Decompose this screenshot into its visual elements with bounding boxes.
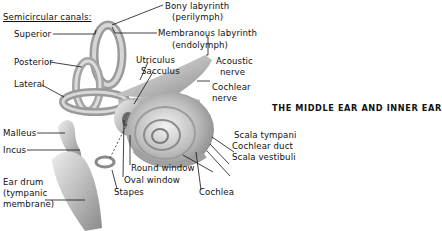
- membranous-labyrinth-label: Membranous labyrinth: [158, 28, 257, 38]
- bony-labyrinth-label: Bony labyrinth: [165, 1, 229, 11]
- stapes-label: Stapes: [114, 187, 144, 197]
- stapes-shape: [96, 157, 114, 167]
- ear-drum-label: Ear drum: [3, 177, 44, 187]
- tympanic-label: (tympanic: [3, 188, 47, 198]
- malleus-label: Malleus: [3, 128, 36, 138]
- diagram-title: THE MIDDLE EAR AND INNER EAR: [272, 103, 442, 113]
- round-window-label: Round window: [131, 163, 195, 173]
- semicircular-canals: [63, 25, 127, 112]
- posterior-label: Posterior: [14, 57, 53, 67]
- sacculus-label: Sacculus: [141, 66, 180, 76]
- scala-vestibuli-label: Scala vestibuli: [232, 152, 296, 162]
- superior-label: Superior: [14, 29, 51, 39]
- cochlear-nerve-label: nerve: [212, 93, 237, 103]
- cochlear-label: Cochlear: [212, 82, 251, 92]
- endolymph-label: (endolymph): [172, 40, 228, 50]
- incus-label: Incus: [3, 145, 26, 155]
- semicircular-canals-label: Semicircular canals:: [3, 12, 92, 22]
- cochlea-label: Cochlea: [199, 187, 234, 197]
- ear-drum-shape: [52, 152, 102, 231]
- utriculus-label: Utriculus: [136, 55, 175, 65]
- lateral-label: Lateral: [14, 79, 45, 89]
- oval-window-label: Oval window: [124, 175, 180, 185]
- perilymph-label: (perilymph): [172, 12, 223, 22]
- acoustic-label: Acoustic: [216, 56, 253, 66]
- membrane-label: membrane): [3, 199, 54, 209]
- cochlear-duct-label: Cochlear duct: [232, 141, 293, 151]
- scala-tympani-label: Scala tympani: [234, 130, 297, 140]
- acoustic-nerve-label: nerve: [220, 67, 245, 77]
